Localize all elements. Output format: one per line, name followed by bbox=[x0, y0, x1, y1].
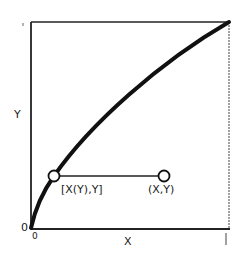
curve-point-marker bbox=[49, 171, 60, 182]
free-point-marker bbox=[159, 171, 170, 182]
diagram-canvas bbox=[0, 0, 244, 258]
x-axis-label: X bbox=[124, 236, 132, 247]
free-point-label: (X,Y) bbox=[148, 184, 174, 195]
y-axis-label: Y bbox=[14, 109, 21, 120]
x-origin-label: 0 bbox=[32, 232, 38, 241]
curve-point-label: [X(Y),Y] bbox=[61, 184, 103, 195]
y-origin-label: 0 bbox=[21, 222, 28, 233]
curve bbox=[31, 22, 229, 228]
